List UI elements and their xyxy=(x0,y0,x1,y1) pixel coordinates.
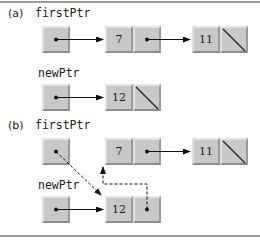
solid-arrows xyxy=(56,40,190,210)
pointer-dots xyxy=(54,38,149,212)
dashed-arrows xyxy=(56,152,147,210)
null-slash-icons xyxy=(136,29,245,163)
arrows-layer xyxy=(0,0,260,240)
